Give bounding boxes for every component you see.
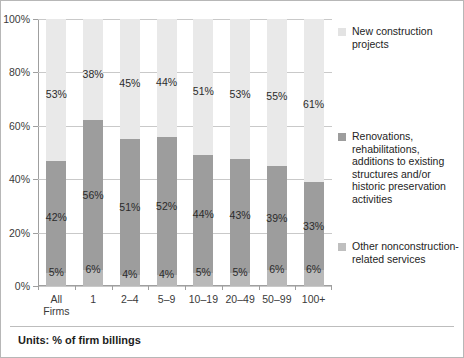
y-axis-tick-label: 60% (9, 120, 30, 132)
bar-value-label: 38% (83, 68, 104, 80)
x-axis-tick-label: All (43, 293, 69, 305)
bar-column: 5%43%53%20–49 (222, 19, 259, 286)
bar-value-label: 39% (266, 212, 287, 224)
bar-stack (46, 19, 66, 286)
bar-value-label: 61% (303, 98, 324, 110)
legend-item-new-construction: New construction projects (338, 25, 460, 50)
x-axis-category-label: AllFirms (43, 293, 69, 317)
bar-column: 5%44%51%10–19 (185, 19, 222, 286)
x-axis-category-label: 100+ (302, 293, 326, 305)
x-axis-category-label: 20–49 (226, 293, 255, 305)
x-axis-category-label: 2–4 (121, 293, 139, 305)
bar-value-label: 44% (193, 208, 214, 220)
bar-value-label: 51% (119, 201, 140, 213)
bar-stack (193, 19, 213, 286)
x-axis-tick-label: 2–4 (121, 293, 139, 305)
x-tick-mark (185, 286, 186, 290)
x-axis-tick-label: 10–19 (189, 293, 218, 305)
bar-value-label: 42% (46, 211, 67, 223)
x-axis-category-label: 5–9 (158, 293, 176, 305)
bar-value-label: 53% (46, 88, 67, 100)
x-axis-category-label: 50–99 (262, 293, 291, 305)
bar-group: 5%42%53%AllFirms6%56%38%14%51%45%2–44%52… (38, 19, 332, 286)
legend-item-other-services: Other nonconstruction-related services (338, 240, 460, 265)
x-axis-tick-label: 20–49 (226, 293, 255, 305)
legend-swatch-icon (338, 28, 346, 36)
y-axis-tick-label: 100% (3, 13, 30, 25)
legend-swatch-icon (338, 133, 346, 141)
x-tick-mark (38, 286, 39, 290)
x-tick-mark (259, 286, 260, 290)
bar-stack (304, 19, 324, 286)
x-axis-category-label: 10–19 (189, 293, 218, 305)
bar-column: 4%52%44%5–9 (148, 19, 185, 286)
legend-swatch-icon (338, 243, 346, 251)
bar-value-label: 56% (83, 189, 104, 201)
x-tick-mark (112, 286, 113, 290)
x-tick-mark (331, 286, 332, 290)
bar-value-label: 4% (122, 268, 137, 280)
legend-label: Renovations, rehabilitations, additions … (352, 130, 460, 206)
bar-value-label: 5% (49, 266, 64, 278)
bar-value-label: 33% (303, 220, 324, 232)
bar-column: 6%33%61%100+ (295, 19, 332, 286)
legend-label: New construction projects (352, 25, 460, 50)
bar-value-label: 6% (86, 263, 101, 275)
bar-value-label: 53% (230, 88, 251, 100)
y-axis-tick-label: 20% (9, 227, 30, 239)
bar-stack (120, 19, 140, 286)
footer-divider (10, 326, 454, 327)
plot-area: 0%20%40%60%80%100% 5%42%53%AllFirms6%56%… (38, 19, 332, 286)
bar-value-label: 4% (159, 268, 174, 280)
bar-stack (157, 19, 177, 286)
bar-stack (83, 19, 103, 286)
x-axis-tick-label: 5–9 (158, 293, 176, 305)
x-tick-mark (148, 286, 149, 290)
bar-value-label: 55% (266, 90, 287, 102)
bar-value-label: 5% (233, 266, 248, 278)
y-axis-tick-label: 80% (9, 66, 30, 78)
bar-value-label: 51% (193, 85, 214, 97)
units-note: Units: % of firm billings (18, 334, 141, 346)
x-tick-mark (222, 286, 223, 290)
bar-stack (267, 19, 287, 286)
bar-value-label: 5% (196, 266, 211, 278)
x-axis-tick-label: 50–99 (262, 293, 291, 305)
legend-item-renovations: Renovations, rehabilitations, additions … (338, 130, 460, 206)
bar-value-label: 45% (119, 77, 140, 89)
x-axis-tick-label-line2: Firms (43, 305, 69, 317)
bar-value-label: 6% (306, 263, 321, 275)
x-axis-tick-label: 100+ (302, 293, 326, 305)
x-tick-mark (75, 286, 76, 290)
x-axis-tick-label: 1 (90, 293, 96, 305)
y-axis-tick-label: 40% (9, 173, 30, 185)
bar-value-label: 52% (156, 200, 177, 212)
bar-stack (230, 19, 250, 286)
bar-column: 5%42%53%AllFirms (38, 19, 75, 286)
bar-value-label: 44% (156, 76, 177, 88)
bar-column: 6%56%38%1 (75, 19, 112, 286)
bar-column: 6%39%55%50–99 (259, 19, 296, 286)
bar-column: 4%51%45%2–4 (112, 19, 149, 286)
chart-figure: 0%20%40%60%80%100% 5%42%53%AllFirms6%56%… (0, 0, 464, 358)
bar-value-label: 6% (269, 263, 284, 275)
x-tick-mark (295, 286, 296, 290)
x-axis-category-label: 1 (90, 293, 96, 305)
legend-label: Other nonconstruction-related services (352, 240, 460, 265)
bar-value-label: 43% (230, 209, 251, 221)
y-axis-tick-label: 0% (15, 280, 30, 292)
